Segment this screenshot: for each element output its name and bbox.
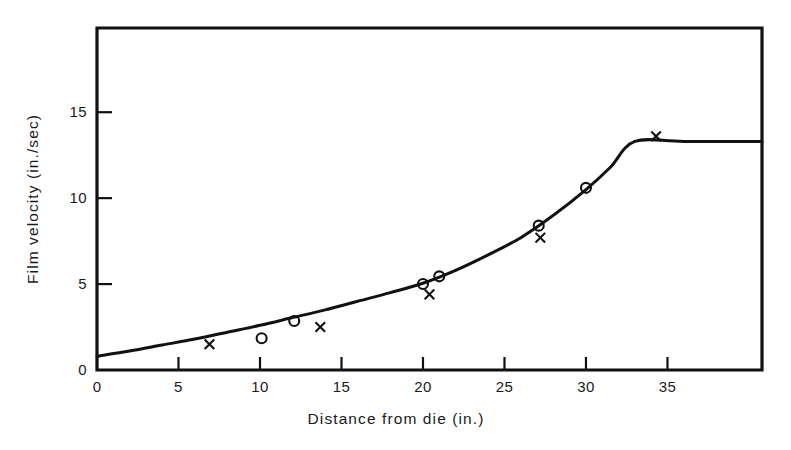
x-tick-label-30: 30 [577, 378, 595, 395]
x-axis-title: Distance from die (in.) [308, 410, 485, 427]
plot-frame [97, 28, 762, 370]
data-point-cross [536, 233, 546, 243]
data-point-circle [257, 333, 267, 343]
x-tick-label-0: 0 [93, 378, 102, 395]
x-tick-label-5: 5 [174, 378, 183, 395]
x-tick-label-10: 10 [251, 378, 269, 395]
y-tick-label-0: 0 [78, 361, 87, 378]
data-point-markers [205, 131, 661, 349]
x-tick-label-25: 25 [496, 378, 514, 395]
x-tick-label-35: 35 [659, 378, 677, 395]
y-tick-label-15: 15 [70, 103, 88, 120]
x-tick-label-20: 20 [414, 378, 432, 395]
data-point-cross [425, 290, 435, 300]
y-tick-label-10: 10 [70, 189, 88, 206]
y-axis-tick-labels: 051015 [70, 103, 88, 378]
y-axis-ticks [97, 112, 112, 284]
data-point-cross [205, 339, 215, 349]
data-curve [97, 140, 762, 357]
y-tick-label-5: 5 [78, 275, 87, 292]
x-tick-label-15: 15 [333, 378, 351, 395]
y-axis-title: Film velocity (in./sec) [24, 114, 41, 284]
chart-figure: 05101520253035 051015 Distance from die … [0, 0, 791, 450]
x-axis-tick-labels: 05101520253035 [93, 378, 677, 395]
x-axis-ticks [97, 357, 667, 370]
data-point-cross [316, 322, 326, 332]
film-velocity-chart: 05101520253035 051015 Distance from die … [0, 0, 791, 450]
